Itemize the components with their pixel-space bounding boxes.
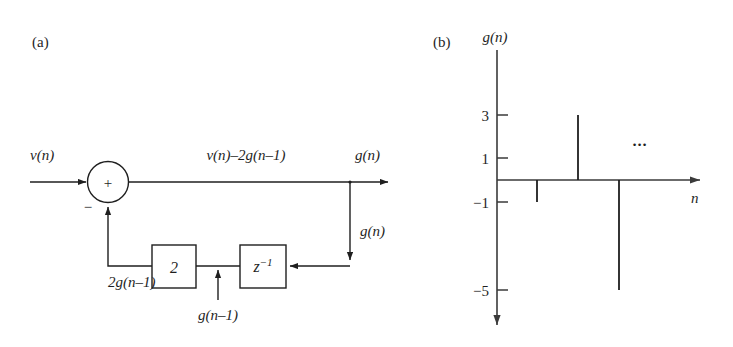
figure-canvas: (a) v(n) + − v(n)–2g(n–1) g(n) g(n): [0, 0, 733, 347]
gain-to-summer-wire: [108, 207, 152, 266]
y-tick-label-1: 1: [482, 151, 490, 167]
y-axis-label: g(n): [483, 29, 508, 46]
delay-block-label-exponent: −1: [260, 256, 273, 268]
output-signal-label: g(n): [355, 147, 380, 164]
panel-a-tag: (a): [32, 34, 49, 51]
summing-junction-minus-sign: −: [84, 199, 92, 215]
feedback-branch-label: g(n): [360, 223, 385, 240]
delay-output-label: g(n–1): [198, 307, 238, 324]
figure-root: (a) v(n) + − v(n)–2g(n–1) g(n) g(n): [0, 0, 733, 347]
y-tick-label-3: 3: [482, 108, 490, 124]
panel-b: (b) g(n) n 3 1 −1 −5 ∙∙∙: [433, 29, 700, 325]
panel-a: (a) v(n) + − v(n)–2g(n–1) g(n) g(n): [30, 34, 388, 324]
input-signal-label: v(n): [30, 147, 54, 164]
panel-b-tag: (b): [433, 34, 451, 51]
summing-junction-plus-sign: +: [104, 175, 112, 191]
summer-output-label: v(n)–2g(n–1): [206, 147, 285, 164]
gain-output-label: 2g(n–1): [108, 274, 156, 291]
gain-block-label: 2: [170, 259, 178, 276]
y-tick-label-neg1: −1: [473, 195, 489, 211]
y-tick-label-neg5: −5: [473, 283, 489, 299]
x-axis-label: n: [691, 190, 699, 206]
ellipsis-annotation: ∙∙∙: [633, 136, 648, 153]
